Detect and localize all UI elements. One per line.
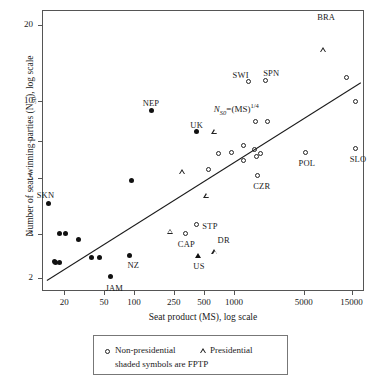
legend-open-circle-icon [105, 349, 110, 354]
data-point-open-circle [216, 151, 221, 156]
point-label-pol: POL [299, 158, 316, 168]
data-point-open-circle [303, 150, 308, 155]
legend-box: Non-presidential Presidential shaded sym… [93, 335, 288, 375]
point-label-nz: NZ [127, 260, 139, 270]
legend-label-presidential: Presidential [210, 345, 253, 355]
fit-equation-annotation: NS0=(MS)1/4 [214, 102, 259, 116]
point-label-bra: BRA [317, 12, 335, 22]
point-label-jam: JAM [105, 283, 123, 293]
data-point-open-triangle [212, 249, 218, 254]
y-tick-label: 10 [9, 95, 33, 105]
data-point-filled-circle [97, 255, 102, 260]
x-tick-label: 1000 [212, 297, 256, 307]
y-tick-mark [38, 25, 42, 26]
point-label-cap: CAP [178, 239, 195, 249]
y-tick-label: 2 [9, 272, 33, 282]
data-point-open-triangle [320, 47, 326, 52]
y-tick-mark [38, 101, 42, 102]
y-tick-label: 5 [9, 172, 33, 182]
data-point-open-circle [353, 146, 358, 151]
point-label-uk: UK [190, 120, 203, 130]
x-tick-mark [134, 291, 135, 295]
data-point-filled-circle [76, 237, 81, 242]
x-tick-mark [234, 291, 235, 295]
x-tick-label: 5000 [282, 297, 326, 307]
data-point-filled-circle [127, 253, 132, 258]
point-label-skn: SKN [37, 190, 55, 200]
point-label-spn: SPN [263, 68, 279, 78]
point-label-nep: NEP [143, 98, 160, 108]
plot-area [42, 10, 364, 291]
chart-root: Number of seat-winning parties (NS0), lo… [0, 0, 378, 383]
y-tick-mark [38, 234, 42, 235]
data-point-filled-circle [46, 201, 51, 206]
data-point-open-triangle [204, 193, 210, 198]
x-tick-label: 100 [112, 297, 156, 307]
x-tick-mark [204, 291, 205, 295]
x-tick-mark [304, 291, 305, 295]
y-tick-mark [38, 278, 42, 279]
legend-label-nonpresidential: Non-presidential [115, 345, 175, 355]
y-tick-mark [38, 141, 42, 142]
data-point-filled-circle [108, 274, 113, 279]
point-label-dr: DR [218, 235, 230, 245]
legend-note-fptp: shaded symbols are FPTP [115, 359, 208, 369]
data-point-filled-triangle [195, 253, 201, 258]
y-tick-label: 7 [9, 135, 33, 145]
x-axis-label: Seat product (MS), log scale [42, 312, 364, 322]
x-tick-label: 20 [42, 297, 86, 307]
data-point-open-circle [241, 143, 246, 148]
data-point-open-circle [183, 231, 188, 236]
data-point-open-triangle [212, 129, 218, 134]
data-point-filled-circle [149, 108, 154, 113]
point-label-slo: SLO [350, 154, 367, 164]
x-tick-mark [64, 291, 65, 295]
y-tick-label: 20 [9, 19, 33, 29]
y-tick-label: 3 [9, 228, 33, 238]
point-label-us: US [193, 261, 204, 271]
data-point-filled-circle [57, 260, 62, 265]
x-tick-label: 15000 [330, 297, 374, 307]
data-point-open-circle [353, 99, 358, 104]
data-point-open-triangle [179, 169, 185, 174]
y-tick-mark [38, 178, 42, 179]
x-tick-mark [174, 291, 175, 295]
point-label-stp: STP [202, 221, 217, 231]
data-point-open-triangle [167, 229, 173, 234]
point-label-swi: SWI [233, 70, 249, 80]
legend-open-triangle-icon [200, 348, 206, 353]
y-axis-label: Number of seat-winning parties (NS0), lo… [25, 11, 37, 281]
data-point-filled-circle [57, 231, 62, 236]
data-point-open-circle [194, 222, 199, 227]
x-tick-mark [352, 291, 353, 295]
point-label-czr: CZR [253, 181, 270, 191]
